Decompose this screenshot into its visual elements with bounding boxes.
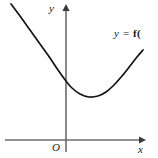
origin-label: O (52, 142, 60, 153)
y-axis-arrow-icon (62, 4, 69, 11)
graph-canvas (0, 0, 158, 158)
function-curve (11, 4, 143, 97)
graph-figure: y x O y = f( (0, 0, 158, 158)
function-label-name: f( (133, 27, 141, 39)
y-axis-label: y (49, 3, 54, 14)
function-label: y = f( (114, 27, 141, 39)
function-label-prefix: y = (114, 27, 133, 39)
x-axis-label: x (138, 144, 143, 155)
